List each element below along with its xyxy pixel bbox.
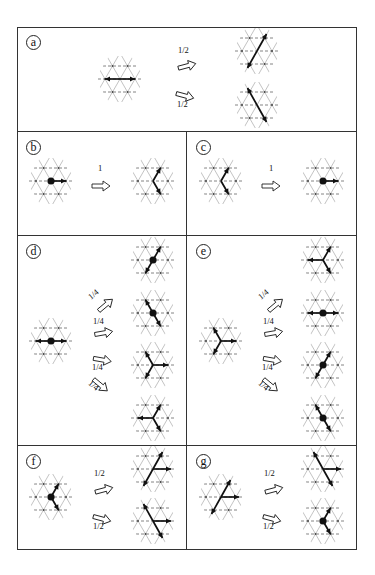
lattice-configuration [298, 158, 348, 204]
transition-probability-label: 1/4 [93, 317, 104, 326]
lattice-configuration [232, 82, 282, 128]
transition-probability-label: 1 [98, 164, 102, 173]
transition-probability-label: 1/2 [93, 522, 104, 531]
lattice-configuration [128, 158, 178, 204]
panel-label-f: f [26, 454, 41, 469]
lattice-configuration [298, 342, 348, 388]
lattice-configuration [26, 318, 76, 364]
transition-probability-label: 1 [269, 164, 273, 173]
transition-probability-label: 1/2 [177, 100, 188, 109]
transition-probability-label: 1/2 [178, 46, 189, 55]
panel-label-d: d [26, 244, 41, 259]
lattice-configuration [298, 290, 348, 336]
lattice-configuration [95, 56, 145, 102]
divider-column [186, 131, 187, 550]
divider-row-2 [17, 235, 357, 236]
transition-probability-label: 1/4 [92, 363, 103, 372]
transition-probability-label: 1/2 [264, 469, 275, 478]
lattice-configuration [128, 498, 178, 544]
lattice-configuration [128, 395, 178, 441]
lattice-configuration [196, 474, 246, 520]
lattice-configuration [128, 237, 178, 283]
transition-arrow-icon [92, 177, 110, 187]
lattice-configuration [298, 237, 348, 283]
lattice-configuration [26, 474, 76, 520]
divider-row-1 [17, 131, 357, 132]
transition-arrow-icon [263, 350, 282, 363]
lattice-configuration [196, 318, 246, 364]
panel-label-b: b [26, 140, 41, 155]
transition-arrow-icon [262, 177, 280, 187]
lattice-configuration [298, 395, 348, 441]
panel-label-e: e [196, 244, 211, 259]
transition-arrow-icon [93, 350, 112, 363]
lattice-configuration [128, 446, 178, 492]
lattice-configuration [232, 28, 282, 74]
lattice-configuration [298, 498, 348, 544]
panel-label-c: c [196, 140, 211, 155]
lattice-configuration [196, 158, 246, 204]
panel-label-g: g [196, 454, 211, 469]
panel-label-a: a [26, 35, 41, 50]
transition-probability-label: 1/2 [263, 522, 274, 531]
lattice-configuration [128, 290, 178, 336]
lattice-configuration [26, 158, 76, 204]
transition-probability-label: 1/2 [94, 469, 105, 478]
transition-probability-label: 1/4 [263, 317, 274, 326]
lattice-configuration [298, 446, 348, 492]
transition-probability-label: 1/4 [262, 363, 273, 372]
lattice-configuration [128, 342, 178, 388]
